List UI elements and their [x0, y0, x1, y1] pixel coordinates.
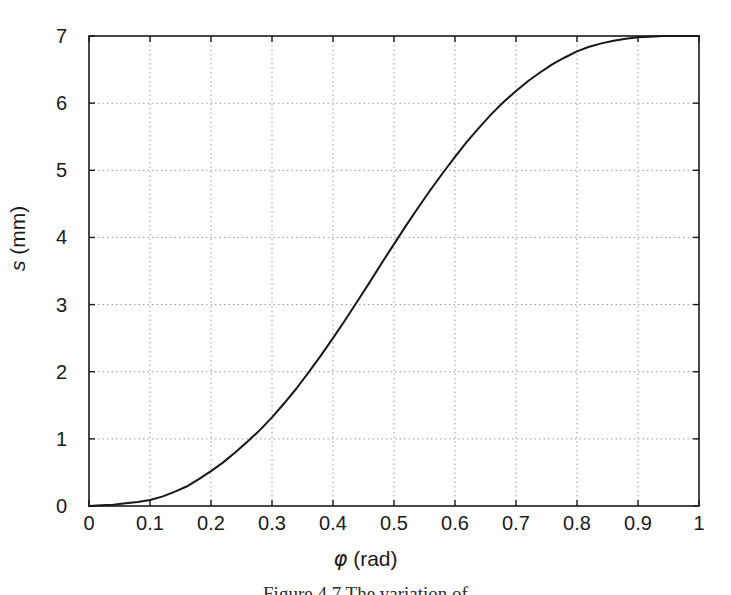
figure-caption: Figure 4.7 The variation of — [0, 583, 731, 595]
plot-area: 00.10.20.30.40.50.60.70.80.91 01234567 — [0, 0, 731, 595]
x-tick-label: 0.9 — [624, 513, 652, 533]
x-tick-label: 0.1 — [136, 513, 164, 533]
y-tick-label: 1 — [56, 429, 67, 449]
x-axis-symbol: φ — [333, 547, 347, 571]
x-tick-label: 1 — [693, 513, 704, 533]
x-tick-label: 0.5 — [380, 513, 408, 533]
y-axis-title: s (mm) — [6, 206, 30, 271]
x-tick-label: 0 — [83, 513, 94, 533]
x-tick-label: 0.6 — [441, 513, 469, 533]
x-tick-label: 0.4 — [319, 513, 347, 533]
y-tick-label: 0 — [56, 496, 67, 516]
y-tick-label: 3 — [56, 295, 67, 315]
x-tick-label: 0.2 — [197, 513, 225, 533]
x-tick-label: 0.8 — [563, 513, 591, 533]
figure-container: 00.10.20.30.40.50.60.70.80.91 01234567 φ… — [0, 0, 731, 595]
x-tick-label: 0.3 — [258, 513, 286, 533]
y-tick-label: 2 — [56, 362, 67, 382]
y-tick-label: 5 — [56, 160, 67, 180]
plot-canvas — [0, 0, 731, 595]
y-tick-label: 6 — [56, 93, 67, 113]
gridlines — [89, 36, 699, 506]
y-axis-unit: (mm) — [6, 206, 29, 261]
y-tick-label: 7 — [56, 26, 67, 46]
x-tick-label: 0.7 — [502, 513, 530, 533]
y-tick-label: 4 — [56, 227, 67, 247]
x-axis-unit: (rad) — [347, 547, 397, 570]
y-axis-symbol: s — [6, 261, 29, 272]
x-axis-title: φ (rad) — [0, 547, 731, 571]
